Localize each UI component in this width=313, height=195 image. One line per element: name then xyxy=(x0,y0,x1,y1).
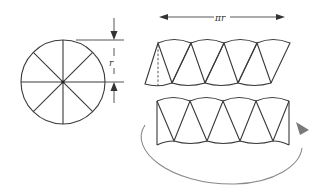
sectors-row-bottom xyxy=(157,98,289,146)
bottom-arc xyxy=(273,141,289,145)
radius-arrow-bottom-head xyxy=(111,82,118,91)
sector-up xyxy=(205,43,238,86)
length-arrow-left-head xyxy=(159,14,168,20)
radius-dimension: r xyxy=(76,18,124,103)
curved-arrow-path xyxy=(141,125,302,184)
radius-label: r xyxy=(109,58,114,68)
sector-up xyxy=(145,43,172,86)
center-dot xyxy=(61,80,64,83)
bottom-arc xyxy=(207,141,240,144)
bottom-arc xyxy=(174,141,207,144)
top-arc xyxy=(256,98,289,102)
top-arc xyxy=(157,98,190,102)
radius-arrow-top-head xyxy=(111,31,118,40)
length-label: πr xyxy=(214,13,226,23)
sector-down xyxy=(257,40,290,84)
top-arc xyxy=(223,98,256,102)
length-arrow-right-head xyxy=(276,14,285,20)
bottom-arc xyxy=(157,141,174,145)
zigzag-spokes xyxy=(157,101,289,141)
sector-up xyxy=(238,43,271,86)
length-dimension: πr xyxy=(159,13,285,23)
sectors-row-top xyxy=(145,40,290,87)
top-arc xyxy=(190,98,223,102)
circle-group xyxy=(21,40,105,124)
transformation-arrow xyxy=(141,122,309,184)
sector-up xyxy=(172,43,205,86)
curved-arrow-head xyxy=(296,122,309,135)
bottom-arc xyxy=(240,141,273,144)
diagram-canvas: r πr xyxy=(0,0,313,195)
